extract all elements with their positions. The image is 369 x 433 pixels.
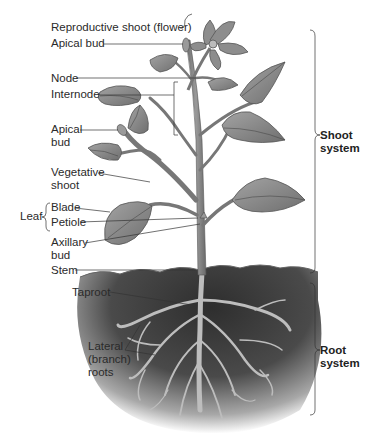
label-taproot: Taproot (72, 286, 110, 299)
label-apical-bud-side-2: bud (51, 136, 70, 149)
label-shoot-system-2: system (320, 142, 360, 155)
label-lateral-roots-2: (branch) (88, 353, 131, 366)
label-axillary-bud-2: bud (51, 249, 70, 262)
label-internode: Internode (51, 88, 100, 101)
label-apical-bud-top: Apical bud (51, 37, 105, 50)
plant-anatomy-diagram: Reproductive shoot (flower) Apical bud N… (0, 0, 369, 433)
label-apical-bud-side-1: Apical (51, 123, 82, 136)
label-reproductive-shoot: Reproductive shoot (flower) (51, 21, 192, 34)
label-stem: Stem (51, 264, 78, 277)
label-vegetative-shoot-1: Vegetative (51, 166, 105, 179)
label-shoot-system-1: Shoot (320, 129, 353, 142)
label-petiole: Petiole (51, 216, 86, 229)
label-node: Node (51, 72, 79, 85)
label-axillary-bud-1: Axillary (51, 236, 88, 249)
label-blade: Blade (51, 201, 80, 214)
label-vegetative-shoot-2: shoot (51, 179, 79, 192)
label-root-system-2: system (320, 357, 360, 370)
label-leaf: Leaf (20, 210, 42, 223)
label-root-system-1: Root (320, 344, 346, 357)
label-lateral-roots-3: roots (88, 366, 114, 379)
flower (190, 20, 248, 70)
label-lateral-roots-1: Lateral (88, 340, 123, 353)
